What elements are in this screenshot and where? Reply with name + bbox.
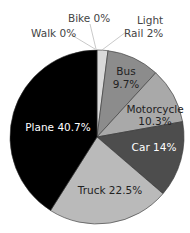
label-bus-1: Bus: [112, 65, 140, 77]
label-bike: Bike 0%: [68, 12, 110, 24]
label-bus-2: 9.7%: [112, 78, 140, 90]
label-car: Car 14%: [129, 141, 179, 153]
label-light-rail-1: Light: [137, 14, 163, 26]
label-walk: Walk 0%: [31, 27, 76, 39]
label-motorcycle-1: Motorcycle: [125, 103, 185, 115]
label-motorcycle-2: 10.3%: [125, 115, 185, 127]
pie-slices: [10, 50, 184, 224]
label-truck: Truck 22.5%: [70, 184, 150, 196]
bike-leader-line: [90, 24, 96, 49]
label-light-rail-2: Rail 2%: [124, 27, 163, 39]
light-rail-leader-line: [102, 32, 126, 50]
label-plane: Plane 40.7%: [18, 121, 98, 133]
